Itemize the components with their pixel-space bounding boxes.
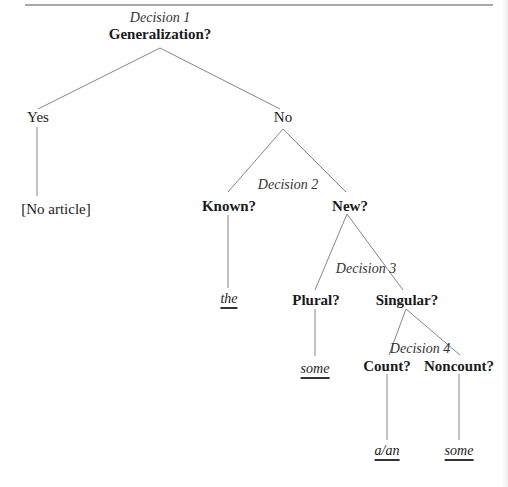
yes-branch: Yes [27,110,49,125]
singular-question: Singular? [376,293,439,308]
no-article-result: [No article] [21,202,91,217]
article-some-noncount: some [445,444,474,461]
new-question: New? [332,199,368,214]
no-branch: No [274,110,292,125]
decision-2-label: Decision 2 [258,178,318,192]
generalization-question: Generalization? [109,27,211,42]
noncount-question: Noncount? [424,359,494,374]
plural-question: Plural? [292,293,340,308]
edge-new-singular [347,214,403,290]
count-question: Count? [363,359,411,374]
tree-connectors [0,0,508,487]
edge-new-plural [315,214,347,290]
article-a-an: a/an [375,444,400,461]
article-some-plural: some [301,362,330,379]
decision-4-label: Decision 4 [390,342,450,356]
article-the: the [220,292,237,309]
decision-1-label: Decision 1 [130,11,190,25]
known-question: Known? [202,199,256,214]
edge-decision1-no [160,48,280,109]
edge-decision1-yes [38,48,160,109]
decision-3-label: Decision 3 [336,262,396,276]
